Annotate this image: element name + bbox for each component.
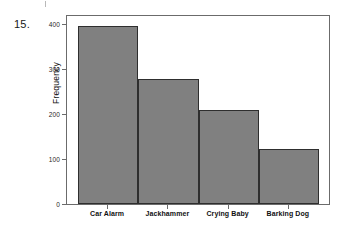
x-axis-category-label: Barking Dog: [258, 210, 318, 218]
bar: [259, 149, 319, 204]
bar: [199, 110, 259, 204]
y-axis-tick-label: 100: [36, 156, 60, 163]
x-axis-tick-mark: [228, 205, 229, 209]
bar-chart-figure: Frequency 0100200300400Car AlarmJackhamm…: [0, 0, 342, 230]
y-axis-tick-label: 200: [36, 111, 60, 118]
y-axis-tick-mark: [62, 204, 66, 205]
x-axis-category-label: Crying Baby: [198, 210, 258, 218]
bars-layer: [67, 16, 329, 204]
y-axis-tick-label: 300: [36, 66, 60, 73]
y-axis-tick-mark: [62, 114, 66, 115]
x-axis-tick-mark: [167, 205, 168, 209]
x-axis-category-label: Jackhammer: [137, 210, 197, 218]
plot-area: [66, 15, 330, 205]
y-axis-tick-mark: [62, 69, 66, 70]
y-axis-tick-mark: [62, 159, 66, 160]
y-axis-tick-label: 0: [36, 201, 60, 208]
y-axis-tick-mark: [62, 24, 66, 25]
bar: [78, 26, 138, 204]
y-axis-tick-label: 400: [36, 21, 60, 28]
bar: [138, 79, 198, 204]
x-axis-tick-mark: [288, 205, 289, 209]
x-axis-tick-mark: [107, 205, 108, 209]
y-axis-title: Frequency: [51, 51, 61, 115]
x-axis-category-label: Car Alarm: [77, 210, 137, 218]
